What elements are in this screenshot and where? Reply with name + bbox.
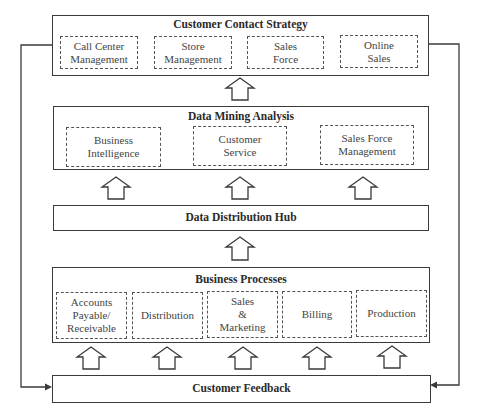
up-arrow-icon [229,347,257,369]
up-arrow-icon [102,177,130,199]
up-arrow-icon [378,346,406,368]
business-intelligence-box: Business Intelligence [66,127,161,167]
layer-title: Business Processes [53,273,429,285]
distribution-box: Distribution [132,292,203,339]
production-box: Production [356,290,427,337]
layer-title: Data Distribution Hub [54,211,428,223]
customer-service-box: Customer Service [193,126,287,166]
customer-feedback-layer: Customer Feedback [52,375,431,403]
up-arrow-icon [303,347,331,369]
layer-title: Customer Feedback [53,382,430,394]
up-arrow-icon [349,177,377,199]
billing-box: Billing [282,291,352,338]
sales-marketing-box: Sales & Marketing [207,291,278,338]
up-arrow-icon [153,347,181,369]
sales-force-management-box: Sales Force Management [320,125,414,165]
data-distribution-hub-layer: Data Distribution Hub [53,205,429,231]
up-arrow-icon [77,347,105,369]
up-arrow-icon [226,78,254,100]
up-arrow-icon [226,237,254,260]
layer-title: Data Mining Analysis [54,110,428,122]
accounts-payable-receivable-box: Accounts Payable/ Receivable [56,292,127,339]
up-arrow-icon [226,177,254,199]
